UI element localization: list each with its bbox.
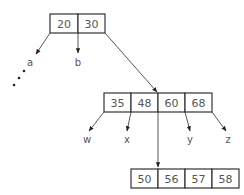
root-key-1: 30 [85,18,99,31]
grandchild-key-0: 50 [138,173,152,186]
edge-child-to-y [185,112,190,131]
child-key-1: 48 [138,97,152,110]
pointer-label-x: x [124,134,130,145]
edge-child-to-z [212,112,226,131]
root-key-0: 20 [57,18,71,31]
child-node: 35 48 60 68 [104,93,212,112]
child-key-0: 35 [111,97,125,110]
grandchild-key-2: 57 [192,173,206,186]
edge-root-to-a [36,33,50,54]
pointer-label-a: a [27,57,33,68]
child-key-3: 68 [192,97,206,110]
grandchild-key-1: 56 [165,173,179,186]
edge-child-to-w [89,112,104,131]
edge-root-to-child [105,33,157,92]
edge-child-to-x [127,112,131,131]
child-key-2: 60 [165,97,179,110]
pointer-label-b: b [75,57,81,68]
grandchild-key-3: 58 [219,173,233,186]
pointer-label-w: w [83,134,91,145]
ellipsis-dots [13,70,26,87]
grandchild-node: 50 56 57 58 [131,169,239,188]
root-node: 20 30 [50,14,105,33]
pointer-label-z: z [225,134,230,145]
b-tree-diagram: 20 30 a b 35 48 60 68 w x y z 50 56 [0,0,244,195]
pointer-label-y: y [187,134,193,145]
